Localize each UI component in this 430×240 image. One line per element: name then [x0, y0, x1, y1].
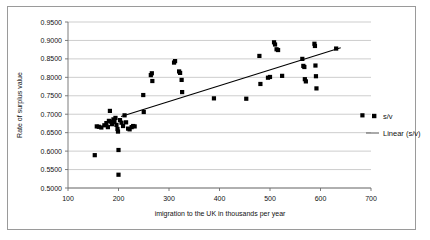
data-point	[313, 63, 317, 67]
y-tick-label: 0.6500	[41, 129, 63, 136]
data-point	[106, 125, 110, 129]
y-tick-label: 0.7000	[41, 111, 63, 118]
chart-legend: s/vLinear (s/v)	[366, 112, 421, 138]
x-tick-label: 400	[214, 195, 226, 202]
data-point	[304, 79, 308, 83]
x-tick-label: 600	[315, 195, 327, 202]
axis-lines	[68, 22, 371, 188]
data-point	[276, 48, 280, 52]
scatter-chart: 0.50000.55000.60000.65000.70000.75000.80…	[0, 0, 430, 240]
y-tick-label: 0.6000	[41, 148, 63, 155]
data-point	[212, 96, 216, 100]
data-point	[116, 173, 120, 177]
data-point	[150, 79, 154, 83]
x-tick-labels: 100200300400500600700	[62, 188, 377, 202]
y-tick-labels: 0.50000.55000.60000.65000.70000.75000.80…	[41, 19, 68, 192]
x-tick-label: 200	[113, 195, 125, 202]
data-point	[141, 93, 145, 97]
y-tick-label: 0.8500	[41, 55, 63, 62]
data-point	[314, 74, 318, 78]
data-point	[313, 44, 317, 48]
gridlines	[68, 22, 371, 188]
data-point	[258, 82, 262, 86]
y-tick-label: 0.9500	[41, 19, 63, 26]
data-point	[280, 74, 284, 78]
data-point	[360, 113, 364, 117]
data-point	[108, 109, 112, 113]
legend-label: Linear (s/v)	[383, 129, 421, 138]
x-axis-title: imigration to the UK in thousands per ye…	[155, 210, 286, 218]
data-points	[93, 40, 365, 177]
data-point	[113, 116, 117, 120]
y-axis-title: Rate of surplus value	[16, 72, 24, 138]
data-point	[116, 129, 120, 133]
y-tick-label: 0.9000	[41, 37, 63, 44]
data-point	[180, 90, 184, 94]
data-point	[244, 97, 248, 101]
data-point	[114, 123, 118, 127]
x-tick-label: 500	[264, 195, 276, 202]
y-tick-label: 0.5000	[41, 185, 63, 192]
data-point	[124, 120, 128, 124]
data-point	[314, 86, 318, 90]
data-point	[121, 124, 125, 128]
data-point	[257, 54, 261, 58]
data-point	[150, 71, 154, 75]
data-point	[178, 71, 182, 75]
x-tick-label: 700	[365, 195, 377, 202]
data-point	[133, 124, 137, 128]
data-point	[116, 148, 120, 152]
data-point	[173, 59, 177, 63]
data-point	[93, 153, 97, 157]
data-point	[302, 65, 306, 69]
y-tick-label: 0.7500	[41, 92, 63, 99]
data-point	[273, 42, 277, 46]
data-point	[268, 75, 272, 79]
y-tick-label: 0.8000	[41, 74, 63, 81]
data-point	[142, 110, 146, 114]
legend-label: s/v	[383, 112, 393, 121]
x-tick-label: 300	[163, 195, 175, 202]
data-point	[180, 78, 184, 82]
y-tick-label: 0.5500	[41, 166, 63, 173]
x-tick-label: 100	[62, 195, 74, 202]
legend-marker-sv	[372, 114, 376, 118]
